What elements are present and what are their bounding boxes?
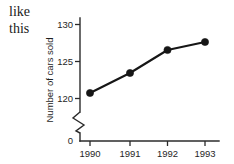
x-tick-label-1990: 1990 — [79, 148, 100, 159]
data-point-1990 — [86, 89, 93, 96]
chart-screenshot: like this 130 125 120 0 — [0, 0, 234, 164]
data-point-1992 — [164, 46, 171, 53]
x-tick-label-1992: 1992 — [157, 148, 178, 159]
y-tick-label-125: 125 — [57, 56, 73, 67]
y-tick-label-130: 130 — [57, 19, 73, 30]
x-tick-label-1993: 1993 — [194, 148, 215, 159]
chart-canvas: 130 125 120 0 1990 1991 1992 1993 Number… — [0, 0, 234, 164]
y-axis-break-icon — [73, 112, 84, 133]
series-line-cars-sold — [90, 42, 205, 93]
y-tick-label-120: 120 — [57, 93, 73, 104]
x-tick-label-1991: 1991 — [119, 148, 140, 159]
y-tick-label-0: 0 — [68, 135, 73, 146]
data-point-1993 — [201, 38, 208, 45]
data-point-1991 — [126, 69, 133, 76]
y-axis-title: Number of cars sold — [44, 37, 55, 122]
line-chart: 130 125 120 0 1990 1991 1992 1993 Number… — [0, 0, 234, 164]
